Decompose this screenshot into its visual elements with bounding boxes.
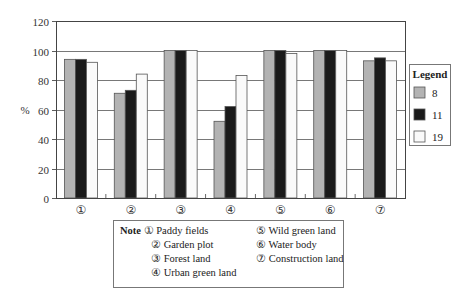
bar-series-19 bbox=[236, 76, 247, 198]
x-category-label: ① bbox=[76, 203, 87, 217]
x-category-label: ⑦ bbox=[375, 203, 386, 217]
legend-title: Legend bbox=[413, 68, 448, 80]
note-marker: ② bbox=[151, 239, 161, 250]
bar-series-8 bbox=[64, 59, 75, 198]
note-box: Note ① Paddy fields ② Garden plot ③ Fore… bbox=[113, 220, 344, 288]
note-item: Note ① Paddy fields bbox=[120, 224, 237, 238]
note-marker: ⑥ bbox=[256, 239, 266, 250]
bar-series-8 bbox=[264, 51, 275, 199]
note-marker: ⑤ bbox=[256, 225, 266, 236]
y-tick-label: 20 bbox=[38, 164, 50, 176]
bar-series-8 bbox=[364, 61, 375, 198]
note-marker: ⑦ bbox=[256, 253, 266, 264]
bar-series-19 bbox=[336, 51, 347, 199]
y-tick-label: 60 bbox=[38, 105, 50, 117]
note-label: Water body bbox=[268, 239, 316, 250]
note-column-2: ⑤ Wild green land ⑥ Water body ⑦ Constru… bbox=[256, 224, 344, 266]
y-tick-label: 0 bbox=[44, 193, 50, 205]
note-item: ④ Urban green land bbox=[120, 266, 237, 280]
bar-series-11 bbox=[225, 107, 236, 198]
bar-series-11 bbox=[175, 51, 186, 199]
note-item: ③ Forest land bbox=[120, 252, 237, 266]
note-marker: ① bbox=[144, 225, 154, 236]
note-label: Forest land bbox=[164, 253, 211, 264]
note-label: Paddy fields bbox=[156, 225, 208, 236]
x-category-label: ② bbox=[125, 203, 136, 217]
x-category-label: ⑥ bbox=[325, 203, 336, 217]
bar-series-8 bbox=[114, 93, 125, 198]
bar-series-11 bbox=[125, 90, 136, 198]
bar-series-19 bbox=[186, 51, 197, 199]
bar-series-11 bbox=[275, 51, 286, 199]
note-marker: ④ bbox=[151, 267, 161, 278]
bar-series-19 bbox=[386, 61, 397, 198]
bar-series-11 bbox=[375, 58, 386, 198]
note-label: Urban green land bbox=[164, 267, 237, 278]
note-label: Garden plot bbox=[164, 239, 214, 250]
legend-swatch bbox=[414, 131, 425, 142]
bar-series-19 bbox=[286, 53, 297, 198]
x-category-label: ③ bbox=[175, 203, 186, 217]
note-label: Wild green land bbox=[268, 225, 335, 236]
bar-series-8 bbox=[214, 121, 225, 198]
note-item: ⑥ Water body bbox=[256, 238, 344, 252]
bar-series-11 bbox=[75, 59, 86, 198]
bar-series-8 bbox=[314, 51, 325, 199]
note-label: Construction land bbox=[269, 253, 344, 264]
bar-series-19 bbox=[136, 74, 147, 198]
y-tick-label: 100 bbox=[33, 46, 50, 58]
y-tick-label: 120 bbox=[33, 16, 50, 28]
legend-label: 8 bbox=[432, 87, 438, 99]
y-tick-label: 40 bbox=[38, 134, 50, 146]
y-axis-label: % bbox=[20, 104, 29, 116]
note-column-1: Note ① Paddy fields ② Garden plot ③ Fore… bbox=[120, 224, 237, 280]
bars bbox=[64, 51, 396, 199]
y-tick-label: 80 bbox=[38, 75, 50, 87]
x-category-label: ④ bbox=[225, 203, 236, 217]
legend-label: 19 bbox=[432, 131, 444, 143]
note-item: ② Garden plot bbox=[120, 238, 237, 252]
note-heading: Note bbox=[120, 225, 141, 236]
bar-series-8 bbox=[164, 51, 175, 199]
note-item: ⑤ Wild green land bbox=[256, 224, 344, 238]
bar-series-11 bbox=[325, 51, 336, 199]
legend-swatch bbox=[414, 109, 425, 120]
legend-swatch bbox=[414, 87, 425, 98]
x-category-label: ⑤ bbox=[275, 203, 286, 217]
note-item: ⑦ Construction land bbox=[256, 252, 344, 266]
bar-series-19 bbox=[86, 62, 97, 198]
legend-label: 11 bbox=[432, 109, 443, 121]
note-marker: ③ bbox=[151, 253, 161, 264]
legend: Legend81119 bbox=[410, 65, 451, 146]
